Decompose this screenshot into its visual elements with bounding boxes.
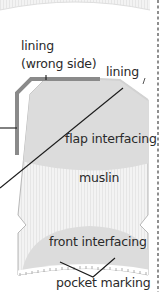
pocket-flap-diagram: lining (wrong side) lining flap interfac… (0, 0, 163, 292)
label-muslin: muslin (79, 172, 119, 185)
label-pocket-marking: pocket marking (56, 277, 151, 290)
label-lining-wrong-side-line1: lining (21, 40, 54, 53)
pin-mark-icon (143, 78, 145, 84)
label-flap-interfacing: flap interfacing (65, 133, 157, 146)
label-front-interfacing: front interfacing (49, 236, 147, 249)
flap-interfacing-area (10, 70, 160, 171)
label-lining: lining (106, 66, 139, 79)
upper-pattern-piece (0, 0, 150, 10)
label-lining-wrong-side-line2: (wrong side) (21, 58, 97, 71)
